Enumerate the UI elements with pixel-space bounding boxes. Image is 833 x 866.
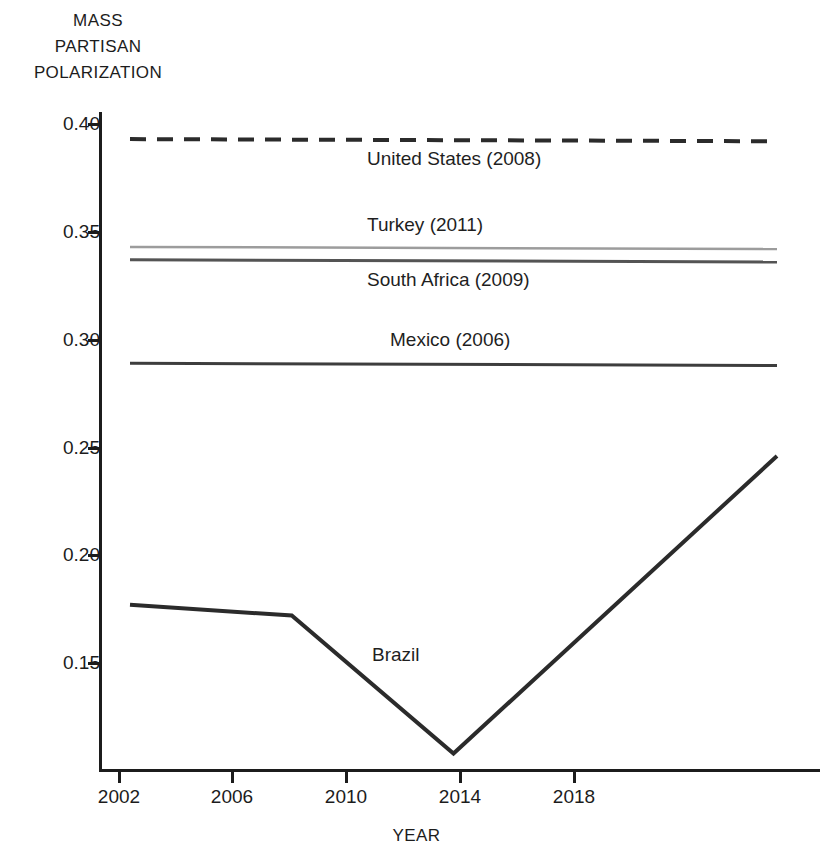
series-line-turkey-2011	[130, 247, 777, 249]
plot-area	[0, 0, 833, 866]
series-line-united-states-2008	[130, 139, 777, 141]
series-layer	[130, 139, 777, 753]
series-line-south-africa-2009	[130, 260, 777, 262]
series-line-brazil	[130, 456, 777, 754]
series-line-mexico-2006	[130, 363, 777, 365]
chart-figure: MASS PARTISAN POLARIZATION 0.40 0.35 0.3…	[0, 0, 833, 866]
